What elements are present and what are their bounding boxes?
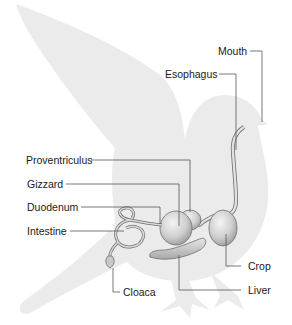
label-gizzard: Gizzard xyxy=(27,178,63,190)
label-liver: Liver xyxy=(248,284,271,296)
label-mouth: Mouth xyxy=(218,45,247,57)
bird-digestive-diagram: Mouth Esophagus Proventriculus Gizzard D… xyxy=(0,0,292,325)
label-esophagus: Esophagus xyxy=(165,68,218,80)
crop-organ xyxy=(209,210,237,246)
label-proventriculus: Proventriculus xyxy=(26,154,93,166)
label-intestine: Intestine xyxy=(27,225,67,237)
label-duodenum: Duodenum xyxy=(27,201,78,213)
label-crop: Crop xyxy=(248,260,271,272)
label-cloaca: Cloaca xyxy=(123,286,156,298)
leader-cloaca xyxy=(113,268,120,292)
gizzard-organ xyxy=(160,211,192,245)
